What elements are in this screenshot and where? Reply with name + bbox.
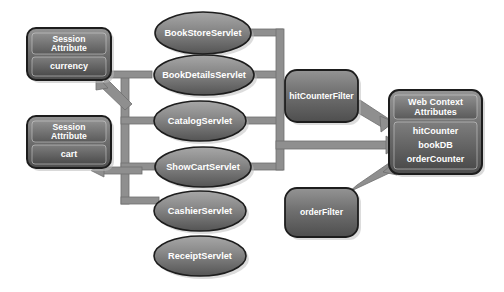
servlet-bookstoreservlet[interactable]: BookStoreServlet [155, 12, 254, 57]
servlet-label: ShowCartServlet [166, 162, 240, 172]
servlet-receiptservlet[interactable]: ReceiptServlet [154, 236, 249, 279]
session-attribute-currency[interactable]: Session Attribute currency [27, 28, 114, 83]
session-attribute-value-cart: cart [61, 149, 78, 159]
filter-label: orderFilter [300, 207, 344, 217]
session-attribute-value-currency: currency [50, 61, 88, 71]
filter-hitcounterfilter[interactable]: hitCounterFilter [285, 70, 361, 125]
web-context-header-line2: Attributes [414, 107, 457, 117]
architecture-diagram: Session Attribute currency Session Attri… [0, 0, 504, 292]
web-context-item-ordercounter: orderCounter [407, 154, 465, 164]
servlet-label: BookStoreServlet [164, 28, 241, 38]
web-context-item-hitcounter: hitCounter [413, 126, 459, 136]
filter-orderfilter[interactable]: orderFilter [285, 188, 361, 240]
web-context-header-line1: Web Context [408, 97, 463, 107]
servlet-label: CashierServlet [168, 206, 232, 216]
servlet-cashierservlet[interactable]: CashierServlet [154, 191, 249, 234]
web-context-item-bookdb: bookDB [418, 140, 453, 150]
servlet-catalogservlet[interactable]: CatalogServlet [154, 101, 249, 144]
servlet-bookdetailsservlet[interactable]: BookDetailsServlet [154, 55, 257, 98]
filter-label: hitCounterFilter [289, 91, 354, 101]
servlet-label: BookDetailsServlet [162, 70, 246, 80]
session-attribute-header-line2: Attribute [51, 43, 87, 53]
session-attribute-header-line2: Attribute [51, 131, 87, 141]
servlet-showcartservlet[interactable]: ShowCartServlet [155, 147, 254, 190]
session-attribute-cart[interactable]: Session Attribute cart [27, 116, 114, 171]
web-context-attributes[interactable]: Web Context Attributes hitCounter bookDB… [389, 90, 485, 177]
servlet-label: ReceiptServlet [168, 251, 232, 261]
diagram-canvas: Session Attribute currency Session Attri… [0, 0, 504, 292]
servlet-label: CatalogServlet [168, 116, 232, 126]
